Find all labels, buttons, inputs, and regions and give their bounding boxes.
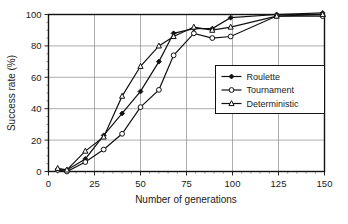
x-tick-label: 125 (271, 178, 287, 189)
y-tick-label: 20 (31, 135, 42, 146)
legend-label: Tournament (247, 85, 295, 95)
chart-legend[interactable]: RouletteTournamentDeterministic (216, 66, 325, 114)
y-tick-label: 80 (31, 40, 42, 51)
marker-open-circle (138, 105, 143, 110)
y-tick-label: 60 (31, 72, 42, 83)
chart-canvas: 020406080100 0255075100125150 Number of … (0, 0, 348, 224)
x-tick-label: 75 (181, 178, 192, 189)
y-axis-title: Success rate (%) (6, 55, 17, 131)
marker-open-circle (171, 53, 176, 58)
marker-open-circle (228, 34, 233, 39)
x-tick-label: 50 (135, 178, 146, 189)
x-tick-label: 25 (89, 178, 100, 189)
chart-figure: 020406080100 0255075100125150 Number of … (0, 0, 348, 224)
legend-label: Deterministic (247, 99, 300, 109)
marker-open-circle (191, 31, 196, 36)
legend-label: Roulette (247, 72, 281, 82)
y-tick-label: 100 (26, 9, 42, 20)
y-tick-label: 0 (36, 166, 41, 177)
marker-open-circle (210, 36, 215, 41)
marker-open-circle (83, 160, 88, 165)
x-tick-label: 150 (317, 178, 333, 189)
marker-open-circle (101, 147, 106, 152)
marker-open-circle (229, 88, 234, 93)
y-tick-label: 40 (31, 103, 42, 114)
marker-open-circle (120, 131, 125, 136)
x-tick-label: 100 (225, 178, 241, 189)
x-axis-title: Number of generations (135, 194, 237, 205)
x-tick-label: 0 (46, 178, 51, 189)
marker-open-circle (157, 87, 162, 92)
